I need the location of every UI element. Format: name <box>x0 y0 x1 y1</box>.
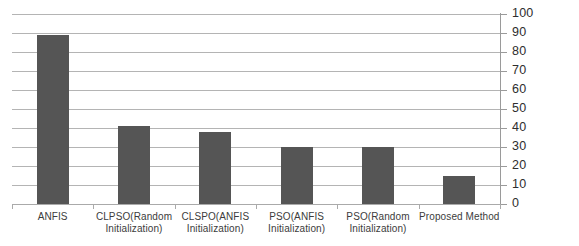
category-label-line1: PSO(ANFIS <box>269 211 324 222</box>
x-tick-mark <box>12 204 13 209</box>
y-tick-mark <box>501 71 507 72</box>
y-tick-label: 20 <box>512 159 526 172</box>
x-tick-mark <box>175 204 176 209</box>
category-label-line1: CLSPO(ANFIS <box>181 211 249 222</box>
y-tick-mark <box>501 52 507 53</box>
y-tick-mark <box>501 128 507 129</box>
y-tick-label: 100 <box>512 7 533 20</box>
x-tick-mark <box>337 204 338 209</box>
bar <box>37 35 69 204</box>
x-tick-mark <box>256 204 257 209</box>
bar <box>443 176 475 205</box>
category-label-line2: Initialization) <box>175 223 256 235</box>
x-axis-category-label: PSO(RandomInitialization) <box>337 211 418 235</box>
y-tick-label: 80 <box>512 45 526 58</box>
gridline <box>12 128 500 129</box>
category-label-line1: CLPSO(Random <box>96 211 172 222</box>
y-tick-mark <box>501 166 507 167</box>
y-tick-mark <box>501 109 507 110</box>
x-axis-category-label: CLSPO(ANFISInitialization) <box>175 211 256 235</box>
x-axis-category-label: CLPSO(RandomInitialization) <box>93 211 174 235</box>
bar-chart: 0102030405060708090100 ANFISCLPSO(Random… <box>0 0 579 246</box>
y-tick-label: 0 <box>512 197 519 210</box>
y-tick-label: 40 <box>512 121 526 134</box>
x-axis-category-label: PSO(ANFISInitialization) <box>256 211 337 235</box>
plot-area <box>12 14 500 204</box>
category-label-line1: PSO(Random <box>346 211 409 222</box>
category-label-line2: Initialization) <box>93 223 174 235</box>
category-label-line2: Initialization) <box>256 223 337 235</box>
y-tick-label: 90 <box>512 26 526 39</box>
x-tick-mark <box>500 204 501 209</box>
gridline <box>12 33 500 34</box>
gridline <box>12 71 500 72</box>
y-tick-label: 10 <box>512 178 526 191</box>
bar <box>118 126 150 204</box>
y-tick-mark <box>501 204 507 205</box>
category-label-line1: ANFIS <box>38 211 68 222</box>
x-axis-category-label: Proposed Method <box>419 211 500 223</box>
gridline <box>12 166 500 167</box>
y-tick-mark <box>501 147 507 148</box>
gridline <box>12 109 500 110</box>
gridline <box>12 185 500 186</box>
gridline <box>12 14 500 15</box>
gridline <box>12 52 500 53</box>
bar <box>281 147 313 204</box>
bar <box>199 132 231 204</box>
y-tick-mark <box>501 14 507 15</box>
y-tick-mark <box>501 90 507 91</box>
y-tick-label: 70 <box>512 64 526 77</box>
category-label-line2: Initialization) <box>337 223 418 235</box>
category-label-line1: Proposed Method <box>419 211 499 222</box>
y-tick-label: 60 <box>512 83 526 96</box>
y-tick-mark <box>501 185 507 186</box>
y-tick-mark <box>501 33 507 34</box>
gridline <box>12 147 500 148</box>
x-tick-mark <box>93 204 94 209</box>
x-axis-category-label: ANFIS <box>12 211 93 223</box>
x-tick-mark <box>419 204 420 209</box>
y-tick-label: 30 <box>512 140 526 153</box>
gridline <box>12 90 500 91</box>
y-tick-label: 50 <box>512 102 526 115</box>
bar <box>362 147 394 204</box>
